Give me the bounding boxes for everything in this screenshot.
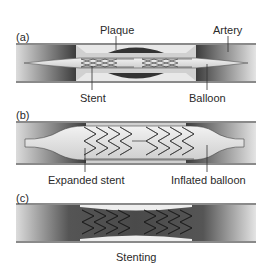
- panel-a-label: (a): [16, 31, 29, 43]
- plaque-label: Plaque: [100, 24, 134, 36]
- expanded-stent-label: Expanded stent: [48, 174, 124, 186]
- panel-a-balloon: [24, 58, 248, 68]
- stenting-diagram: [0, 0, 272, 271]
- panel-c-label: (c): [16, 192, 29, 204]
- inflated-balloon-label: Inflated balloon: [171, 174, 246, 186]
- artery-label: Artery: [213, 24, 242, 36]
- caption: Stenting: [116, 251, 156, 263]
- stent-label: Stent: [80, 92, 106, 104]
- balloon-label: Balloon: [189, 92, 226, 104]
- panel-c-artery: [16, 203, 256, 243]
- panel-b-label: (b): [16, 109, 29, 121]
